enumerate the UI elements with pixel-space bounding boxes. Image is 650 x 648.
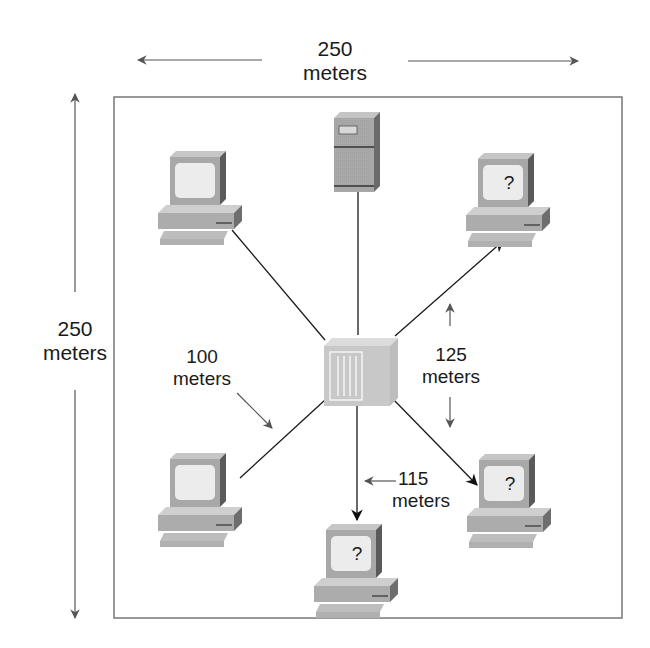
pc-top-right-screen-label: ? [484,172,534,194]
network-diagram: ? ? ? 250 meters 250 meters 100 meters 1… [0,0,650,648]
pc-top-right-icon [466,153,550,247]
hub-icon [324,338,398,406]
link-115-unit: meters [392,490,472,512]
link-hub-pc-top-right [395,241,503,336]
pc-bottom-center-icon [314,524,398,618]
left-dimension-label: 250 meters [30,317,120,365]
left-dimension-value: 250 [30,317,120,341]
link-115-label: 115 meters [392,468,472,512]
link-100-pointer-arrow-icon [237,393,272,428]
link-hub-pc-bottom-left [240,400,325,478]
link-hub-pc-top-left [232,230,325,340]
link-125-unit: meters [411,366,491,388]
link-125-label: 125 meters [411,344,491,388]
left-dimension-unit: meters [30,341,120,365]
pc-bottom-right-screen-label: ? [485,473,535,495]
top-dimension-label: 250 meters [295,37,375,85]
link-100-value: 100 [162,346,242,368]
link-100-unit: meters [162,368,242,390]
top-dimension-value: 250 [295,37,375,61]
pc-bottom-center-screen-label: ? [332,543,382,565]
pc-bottom-left-icon [158,453,242,547]
link-115-value: 115 [392,468,472,490]
link-100-label: 100 meters [162,346,242,390]
link-125-value: 125 [411,344,491,366]
pc-bottom-right-icon [467,454,551,548]
top-dimension-unit: meters [295,61,375,85]
pc-top-left-icon [158,151,242,245]
server-icon [334,112,380,192]
